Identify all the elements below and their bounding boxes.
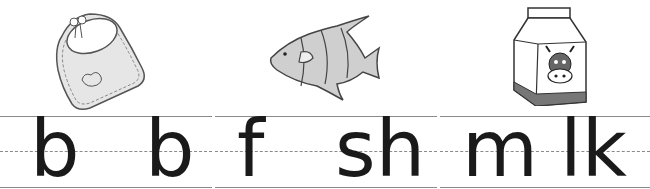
- letter-last: lk: [560, 110, 627, 188]
- card-bib: b b: [0, 0, 213, 189]
- letter-first: m: [462, 110, 538, 188]
- card-fish: f sh: [215, 0, 437, 189]
- fish-icon: [267, 12, 387, 102]
- letter-first: f: [237, 110, 264, 188]
- card-milk: m lk: [440, 0, 650, 189]
- letter-last: sh: [335, 110, 425, 188]
- milk-carton-icon: [508, 6, 588, 106]
- bib-icon: [50, 8, 150, 113]
- letter-first: b: [30, 110, 80, 188]
- letter-last: b: [145, 110, 195, 188]
